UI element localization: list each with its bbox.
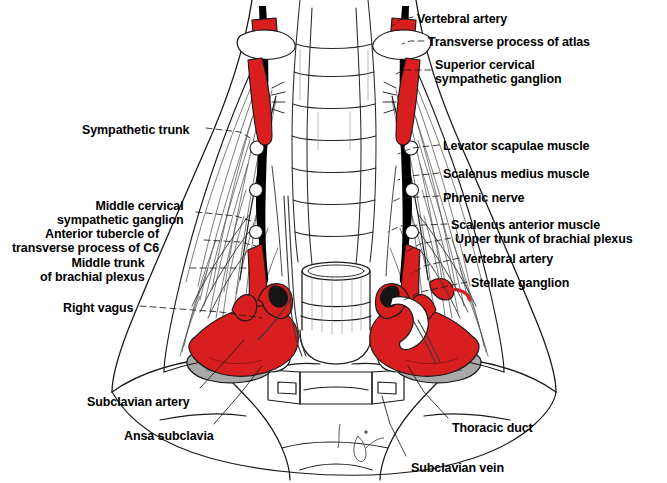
- cervical-vertebrae: [292, 0, 376, 264]
- label-upper-trunk-brachial-plexus: Upper trunk of brachial plexus: [455, 232, 633, 246]
- anatomy-figure: Vertebral arteryTransverse process of at…: [0, 0, 667, 483]
- label-ansa-subclavia: Ansa subclavia: [124, 429, 214, 443]
- label-scalenus-medius-muscle: Scalenus medius muscle: [443, 167, 589, 181]
- label-subclavian-vein: Subclavian vein: [411, 461, 504, 475]
- label-vertebral-artery-lower: Vertebral artery: [463, 252, 553, 266]
- label-subclavian-artery: Subclavian artery: [87, 395, 190, 409]
- manubrium: [268, 363, 404, 404]
- transverse-process-atlas-left: [237, 18, 295, 59]
- label-middle-trunk-brachial-plexus: Middle trunk of brachial plexus: [40, 256, 144, 284]
- label-right-vagus: Right vagus: [63, 301, 133, 315]
- label-levator-scapulae-muscle: Levator scapulae muscle: [443, 139, 589, 153]
- label-scalenus-anterior-muscle: Scalenus anterior muscle: [451, 218, 600, 232]
- vertebral-artery-upper-left: [248, 58, 272, 145]
- label-stellate-ganglion: Stellate ganglion: [471, 276, 569, 290]
- phrenic-nerve: [272, 166, 396, 276]
- trachea: [300, 262, 372, 364]
- label-vertebral-artery-top: Vertebral artery: [417, 12, 507, 26]
- label-transverse-process-atlas: Transverse process of atlas: [428, 35, 590, 49]
- label-thoracic-duct: Thoracic duct: [452, 421, 533, 435]
- label-middle-cervical-sympathetic-ganglion: Middle cervical sympathetic ganglion: [57, 199, 184, 227]
- label-anterior-tubercle-c6: Anterior tubercle of transverse process …: [12, 227, 159, 255]
- label-superior-cervical-sympathetic-ganglion: Superior cervical sympathetic ganglion: [435, 58, 562, 86]
- vertebral-artery-upper-right: [396, 58, 420, 145]
- label-sympathetic-trunk: Sympathetic trunk: [82, 123, 189, 137]
- label-phrenic-nerve: Phrenic nerve: [443, 191, 524, 205]
